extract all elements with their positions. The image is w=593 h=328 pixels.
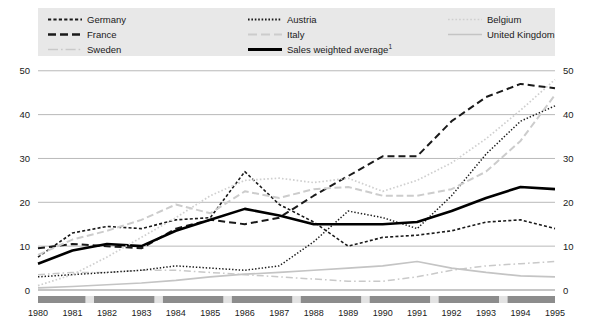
legend-line-swatch-icon <box>48 46 82 53</box>
x-axis-tick-label: 1982 <box>97 308 117 318</box>
legend-item-sweden: Sweden <box>48 42 248 57</box>
legend-item-label: Sales weighted average1 <box>287 44 392 55</box>
legend-item-united-kingdom: United Kingdom <box>448 27 565 42</box>
series-line-belgium <box>38 80 555 286</box>
x-axis-tick-labels: 1980198119821983198419851986198719881989… <box>28 308 565 318</box>
x-axis-tick-label: 1993 <box>476 308 496 318</box>
x-axis-band-segment <box>508 296 555 303</box>
x-axis-band-segment <box>163 296 223 303</box>
series-line-austria <box>38 106 555 277</box>
legend-line-swatch-icon <box>48 31 82 38</box>
x-axis-tick-label: 1992 <box>442 308 462 318</box>
y-axis-tick-label-left: 0 <box>25 285 30 296</box>
y-axis-tick-label-right: 10 <box>563 241 574 252</box>
chart-legend: GermanyFranceSwedenAustriaItalySales wei… <box>38 8 555 56</box>
x-axis-band-segment <box>38 296 85 303</box>
x-axis-band-segment <box>370 296 430 303</box>
legend-item-germany: Germany <box>48 12 248 27</box>
x-axis-tick-label: 1989 <box>338 308 358 318</box>
data-series-group <box>38 80 555 288</box>
series-line-sales-weighted-average <box>38 187 555 264</box>
chart-plot-area: 01020304050 01020304050 1980198119821983… <box>0 58 593 328</box>
x-axis-band-segment <box>301 296 361 303</box>
x-axis-tick-label: 1987 <box>269 308 289 318</box>
legend-item-france: France <box>48 27 248 42</box>
x-axis-tick-label: 1994 <box>511 308 531 318</box>
legend-line-swatch-icon <box>48 16 82 23</box>
y-axis-tick-label-left: 40 <box>19 109 30 120</box>
legend-item-sales-weighted-average: Sales weighted average1 <box>248 42 448 57</box>
legend-item-label: France <box>87 30 117 40</box>
legend-item-belgium: Belgium <box>448 12 565 27</box>
legend-item-austria: Austria <box>248 12 448 27</box>
x-axis-tick-label: 1981 <box>62 308 82 318</box>
legend-item-label: Italy <box>287 30 304 40</box>
y-axis-tick-label-left: 20 <box>19 197 30 208</box>
y-axis-tick-label-left: 10 <box>19 241 30 252</box>
x-axis-tick-label: 1990 <box>373 308 393 318</box>
legend-items-container: GermanyFranceSwedenAustriaItalySales wei… <box>38 12 555 57</box>
x-axis-tick-label: 1986 <box>235 308 255 318</box>
x-axis-tick-label: 1988 <box>304 308 324 318</box>
x-axis-tick-label: 1984 <box>166 308 186 318</box>
x-axis-tick-label: 1983 <box>131 308 151 318</box>
y-axis-tick-label-right: 0 <box>563 285 568 296</box>
legend-line-swatch-icon <box>448 16 482 23</box>
y-axis-tick-label-right: 20 <box>563 197 574 208</box>
line-chart-svg: 01020304050 01020304050 1980198119821983… <box>0 58 593 328</box>
legend-item-label: Austria <box>287 15 317 25</box>
y-axis-tick-label-left: 30 <box>19 153 30 164</box>
legend-item-label: Belgium <box>487 15 521 25</box>
x-axis-tick-label: 1995 <box>545 308 565 318</box>
legend-line-swatch-icon <box>448 31 482 38</box>
legend-item-label: United Kingdom <box>487 30 555 40</box>
series-line-italy <box>38 95 555 255</box>
x-axis-band-segment <box>232 296 292 303</box>
legend-item-label: Germany <box>87 15 126 25</box>
y-axis-right: 01020304050 <box>563 65 574 295</box>
legend-footnote-marker: 1 <box>388 43 392 50</box>
x-axis-tick-label: 1991 <box>407 308 427 318</box>
legend-line-swatch-icon <box>248 46 282 53</box>
y-axis-tick-label-right: 40 <box>563 109 574 120</box>
legend-line-swatch-icon <box>248 16 282 23</box>
legend-item-italy: Italy <box>248 27 448 42</box>
x-axis-band-segment <box>439 296 499 303</box>
y-axis-left: 01020304050 <box>19 65 30 295</box>
y-axis-tick-label-right: 50 <box>563 65 574 76</box>
x-axis-band <box>38 296 555 303</box>
x-axis-band-segment <box>94 296 154 303</box>
legend-item-label: Sweden <box>87 45 121 55</box>
legend-line-swatch-icon <box>248 31 282 38</box>
series-line-united-kingdom <box>38 262 555 288</box>
x-axis-tick-label: 1980 <box>28 308 48 318</box>
y-axis-tick-label-left: 50 <box>19 65 30 76</box>
y-axis-tick-label-right: 30 <box>563 153 574 164</box>
x-axis-tick-label: 1985 <box>200 308 220 318</box>
